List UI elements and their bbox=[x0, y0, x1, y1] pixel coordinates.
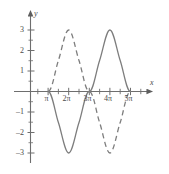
sine-curves-figure: π 2π 3π 4π 5π 3 2 1 –1 –2 –3 x y bbox=[0, 0, 169, 174]
y-tick-label-2: 2 bbox=[12, 47, 24, 55]
x-tick-label-four-pi: 4π bbox=[104, 95, 112, 103]
x-tick-label-three-pi: 3π bbox=[84, 95, 92, 103]
plot-canvas bbox=[0, 0, 169, 174]
x-tick-label-two-pi: 2π bbox=[63, 95, 71, 103]
y-tick-label-neg1: –1 bbox=[8, 108, 24, 116]
y-axis-label: y bbox=[34, 10, 38, 18]
y-tick-label-1: 1 bbox=[12, 67, 24, 75]
x-tick-label-five-pi: 5π bbox=[125, 95, 133, 103]
x-axis-label: x bbox=[150, 79, 154, 87]
y-tick-label-neg2: –2 bbox=[8, 129, 24, 137]
y-tick-label-neg3: –3 bbox=[8, 149, 24, 157]
y-tick-label-3: 3 bbox=[12, 26, 24, 34]
x-tick-label-pi: π bbox=[45, 95, 49, 103]
